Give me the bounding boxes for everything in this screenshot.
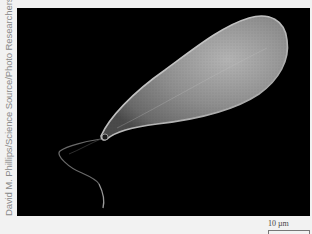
scale-bar: [268, 230, 310, 234]
photo-credit: David M. Phillips/Science Source/Photo R…: [2, 8, 16, 216]
flagellum: [59, 139, 101, 184]
cell-illustration: [17, 8, 310, 216]
scale-bar-label: 10 µm: [268, 219, 289, 228]
figure: David M. Phillips/Science Source/Photo R…: [0, 0, 312, 234]
micrograph-image: [17, 8, 310, 216]
